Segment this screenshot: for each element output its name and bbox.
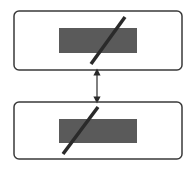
top-box <box>14 11 182 70</box>
bottom-dark-bar <box>59 119 137 143</box>
diagram-canvas <box>0 0 193 174</box>
bottom-box <box>14 102 182 159</box>
top-dark-bar <box>59 28 137 53</box>
